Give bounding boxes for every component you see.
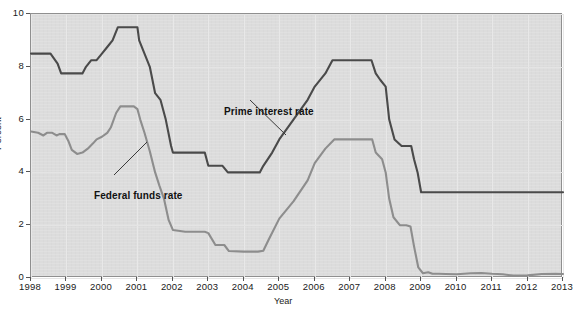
x-axis-title: Year — [274, 296, 292, 306]
x-tick-label: 2001 — [116, 281, 156, 292]
y-tick-label: 4 — [0, 166, 24, 176]
x-tick-mark — [420, 277, 421, 281]
series-label-prime-interest-rate: Prime interest rate — [224, 106, 314, 117]
y-tick-mark — [26, 13, 30, 14]
x-tick-mark — [30, 277, 31, 281]
x-tick-label: 2010 — [436, 281, 476, 292]
x-tick-mark — [349, 277, 350, 281]
y-tick-label: 10 — [0, 8, 24, 18]
x-tick-mark — [207, 277, 208, 281]
x-tick-label: 1999 — [45, 281, 85, 292]
x-tick-label: 2008 — [365, 281, 405, 292]
x-tick-label: 2005 — [258, 281, 298, 292]
x-tick-label: 2004 — [223, 281, 263, 292]
x-tick-mark — [562, 277, 563, 281]
annotation-leader-line — [114, 142, 147, 175]
y-tick-mark — [26, 224, 30, 225]
x-tick-label: 2013 — [542, 281, 581, 292]
x-tick-label: 2012 — [507, 281, 547, 292]
x-tick-label: 1998 — [10, 281, 50, 292]
x-tick-mark — [65, 277, 66, 281]
x-tick-mark — [527, 277, 528, 281]
x-tick-label: 2009 — [400, 281, 440, 292]
x-tick-label: 2006 — [294, 281, 334, 292]
y-tick-mark — [26, 171, 30, 172]
x-tick-mark — [278, 277, 279, 281]
x-tick-mark — [243, 277, 244, 281]
x-tick-mark — [456, 277, 457, 281]
x-tick-mark — [172, 277, 173, 281]
x-tick-mark — [101, 277, 102, 281]
y-tick-label: 2 — [0, 219, 24, 229]
x-tick-label: 2002 — [152, 281, 192, 292]
y-tick-mark — [26, 119, 30, 120]
series-lines — [31, 14, 563, 278]
x-tick-label: 2011 — [471, 281, 511, 292]
x-tick-label: 2003 — [187, 281, 227, 292]
x-tick-label: 2007 — [329, 281, 369, 292]
y-tick-label: 6 — [0, 114, 24, 124]
x-tick-mark — [314, 277, 315, 281]
x-tick-mark — [491, 277, 492, 281]
interest-rates-line-chart: Prime interest rate Federal funds rate P… — [0, 0, 581, 317]
x-tick-mark — [385, 277, 386, 281]
y-tick-label: 8 — [0, 61, 24, 71]
x-tick-label: 2000 — [81, 281, 121, 292]
plot-area: Prime interest rate Federal funds rate — [30, 13, 562, 277]
series-label-federal-funds-rate: Federal funds rate — [94, 190, 183, 201]
x-tick-mark — [136, 277, 137, 281]
y-tick-mark — [26, 66, 30, 67]
